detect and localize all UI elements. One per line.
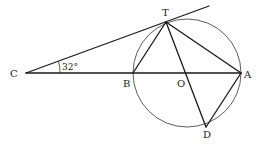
point-label-d: D <box>203 129 211 140</box>
point-label-a: A <box>243 69 252 80</box>
chord-ta <box>166 22 241 73</box>
angle-label: 32° <box>62 62 78 72</box>
diameter-td <box>166 22 206 127</box>
geometry-diagram: 32° C T B O A D <box>0 0 263 146</box>
point-label-o: O <box>177 78 185 89</box>
angle-arc-c <box>59 62 61 74</box>
point-label-c: C <box>10 68 18 79</box>
point-label-t: T <box>162 7 169 18</box>
chord-da <box>206 73 241 127</box>
chord-tb <box>133 22 166 73</box>
point-label-b: B <box>123 78 130 89</box>
